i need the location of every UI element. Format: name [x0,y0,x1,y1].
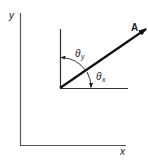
theta-x-label: θ x [96,71,106,83]
vector-a-label: A [131,22,138,33]
diagram-svg: y x A θ y θ x [0,0,148,163]
theta-x-subscript: x [101,76,106,83]
x-axis-label: x [119,146,126,157]
theta-x-arc-arrow [87,72,91,88]
theta-y-label: θ y [75,48,85,61]
theta-y-subscript: y [80,53,85,61]
y-axis-label: y [8,10,15,21]
vector-angle-diagram: y x A θ y θ x [0,0,148,163]
